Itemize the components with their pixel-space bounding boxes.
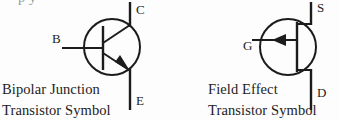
fet-envelope-circle bbox=[260, 19, 316, 75]
bjt-emitter-arrowhead bbox=[115, 55, 130, 71]
fet-gate-arrowhead bbox=[272, 34, 286, 46]
fet-gate-label: G bbox=[243, 39, 252, 52]
fet-caption-line-1: Field Effect bbox=[208, 82, 278, 97]
bjt-base-label: B bbox=[52, 32, 61, 45]
fet-source-label: S bbox=[317, 1, 324, 14]
transistor-symbols-figure: p y bbox=[0, 0, 339, 120]
fet-drain-label: D bbox=[317, 86, 326, 99]
bjt-collector-diagonal bbox=[103, 25, 130, 43]
fet-caption-line-2: Transistor Symbol bbox=[208, 103, 317, 118]
bjt-caption-line-1: Bipolar Junction bbox=[2, 82, 100, 97]
bjt-emitter-label: E bbox=[136, 94, 144, 107]
bjt-caption-line-2: Transistor Symbol bbox=[2, 103, 111, 118]
bjt-collector-label: C bbox=[136, 3, 145, 16]
